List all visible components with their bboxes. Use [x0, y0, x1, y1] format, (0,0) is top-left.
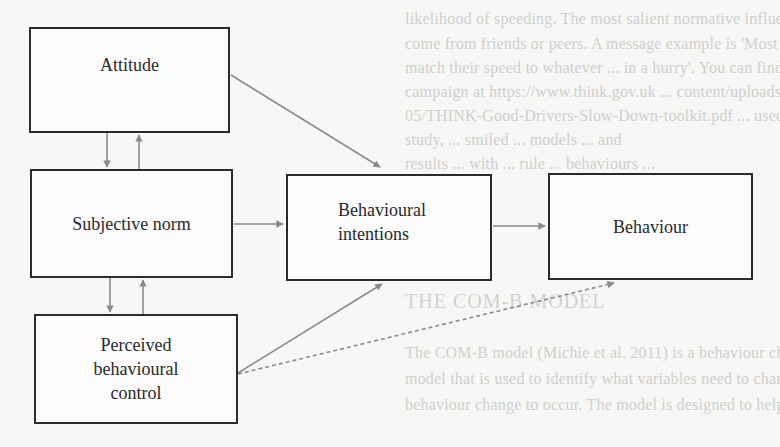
node-subjective-norm: Subjective norm — [30, 169, 233, 278]
node-perceived-behavioural-control: Perceived behavioural control — [34, 314, 238, 424]
node-behavioural-intentions: Behavioural intentions — [286, 174, 492, 281]
node-label: Perceived behavioural control — [94, 333, 179, 405]
node-label: Attitude — [31, 53, 228, 77]
dashed-arrow-pbc-to-behaviour — [238, 283, 614, 374]
node-behaviour: Behaviour — [548, 173, 753, 280]
node-label: Behavioural intentions — [338, 198, 426, 246]
node-label: Behaviour — [613, 215, 688, 239]
arrow-attitude-to-intentions — [231, 75, 380, 167]
node-label: Subjective norm — [72, 212, 190, 236]
arrow-pbc-to-intentions — [238, 284, 382, 373]
node-attitude: Attitude — [29, 27, 230, 133]
